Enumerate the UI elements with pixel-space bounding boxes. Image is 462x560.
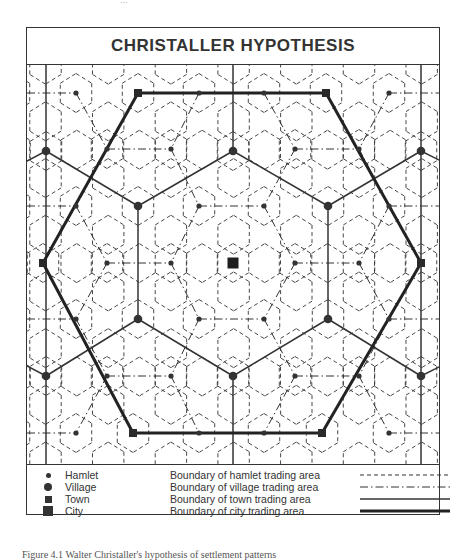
legend-city: City bbox=[41, 505, 98, 517]
legend-town: Town bbox=[41, 493, 98, 505]
figure-frame: CHRISTALLER HYPOTHESIS Hamlet Village To… bbox=[26, 27, 440, 515]
thick-solid-line-icon bbox=[360, 508, 450, 514]
legend-label: City bbox=[65, 505, 83, 517]
dashed-line-icon bbox=[360, 472, 450, 478]
legend-village-boundary: Boundary of village trading area bbox=[170, 481, 450, 493]
town-square-icon bbox=[41, 496, 55, 503]
legend-label: Hamlet bbox=[65, 469, 98, 481]
legend-label: Town bbox=[65, 493, 90, 505]
legend-label: Village bbox=[65, 481, 96, 493]
legend-city-boundary: Boundary of city trading area bbox=[170, 505, 450, 517]
legend-hamlet-boundary: Boundary of hamlet trading area bbox=[170, 469, 450, 481]
cropped-header-text: ... bbox=[120, 0, 128, 5]
legend-label: Boundary of hamlet trading area bbox=[170, 469, 360, 481]
thin-solid-line-icon bbox=[360, 496, 450, 502]
city-square-icon bbox=[41, 506, 55, 516]
legend-label: Boundary of city trading area bbox=[170, 505, 360, 517]
hexagonal-lattice-diagram bbox=[27, 64, 439, 464]
legend: Hamlet Village Town City Boundary of ham… bbox=[27, 464, 439, 514]
title-box: CHRISTALLER HYPOTHESIS bbox=[27, 28, 439, 65]
settlement-map bbox=[27, 64, 439, 464]
legend-settlements: Hamlet Village Town City bbox=[41, 469, 98, 517]
figure-caption: Figure 4.1 Walter Christaller's hypothes… bbox=[22, 549, 276, 560]
legend-label: Boundary of town trading area bbox=[170, 493, 360, 505]
hamlet-dot-icon bbox=[41, 473, 55, 478]
village-dot-icon bbox=[41, 483, 55, 491]
legend-hamlet: Hamlet bbox=[41, 469, 98, 481]
figure-title: CHRISTALLER HYPOTHESIS bbox=[111, 36, 355, 56]
legend-boundaries: Boundary of hamlet trading area Boundary… bbox=[170, 469, 450, 517]
legend-village: Village bbox=[41, 481, 98, 493]
dash-dot-line-icon bbox=[360, 484, 450, 490]
legend-label: Boundary of village trading area bbox=[170, 481, 360, 493]
legend-town-boundary: Boundary of town trading area bbox=[170, 493, 450, 505]
